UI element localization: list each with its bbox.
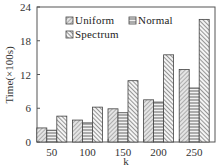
- legend-label: Uniform: [75, 14, 115, 26]
- legend-swatch: [66, 31, 73, 38]
- bar-uniform-250: [179, 69, 189, 142]
- bar-spectrum-50: [57, 116, 67, 142]
- bar-uniform-100: [72, 120, 82, 142]
- y-tick-label: 0: [26, 136, 32, 148]
- y-tick-label: 12: [20, 69, 31, 81]
- legend-item-spectrum: Spectrum: [66, 28, 119, 40]
- y-axis-title: Time(×100s): [3, 46, 16, 103]
- legend-label: Normal: [138, 14, 173, 26]
- bar-normal-150: [118, 113, 128, 142]
- legend-swatch: [129, 17, 136, 24]
- y-tick-label: 24: [20, 1, 32, 13]
- x-tick-label: 100: [79, 146, 96, 158]
- legend-item-normal: Normal: [129, 14, 173, 26]
- bar-uniform-50: [37, 128, 47, 142]
- bar-spectrum-150: [128, 81, 138, 142]
- y-tick-label: 6: [26, 102, 32, 114]
- bar-normal-100: [82, 123, 92, 142]
- x-axis-title: k: [123, 155, 129, 167]
- x-tick-label: 50: [46, 146, 58, 158]
- x-tick-label: 200: [150, 146, 167, 158]
- x-tick-label: 250: [186, 146, 203, 158]
- legend-swatch: [66, 17, 73, 24]
- bar-normal-250: [189, 88, 199, 142]
- legend-item-uniform: Uniform: [66, 14, 115, 26]
- bar-normal-200: [154, 102, 164, 142]
- bar-normal-50: [47, 130, 57, 142]
- bar-chart: 06121824 50100150200250 UniformNormalSpe…: [0, 0, 220, 168]
- bar-spectrum-100: [92, 107, 102, 142]
- bar-spectrum-250: [199, 19, 209, 142]
- bar-spectrum-200: [164, 55, 174, 142]
- bar-uniform-150: [108, 109, 118, 142]
- bars: [37, 19, 209, 142]
- y-tick-label: 18: [20, 35, 32, 47]
- legend: UniformNormalSpectrum: [66, 14, 173, 40]
- legend-label: Spectrum: [75, 28, 119, 40]
- bar-uniform-200: [144, 100, 154, 142]
